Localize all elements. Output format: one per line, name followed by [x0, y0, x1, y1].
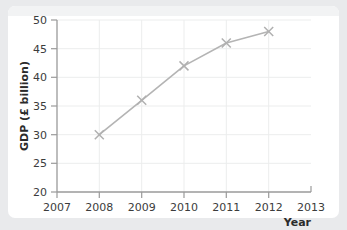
y-tick-label-50: 50: [33, 14, 47, 27]
y-tick-label-20: 20: [33, 186, 47, 199]
x-tick-label-2009: 2009: [128, 201, 156, 214]
y-tick-marks: [51, 20, 57, 192]
y-tick-label-35: 35: [33, 100, 47, 113]
y-axis-title: GDP (£ billion): [18, 61, 31, 151]
x-tick-label-2007: 2007: [43, 201, 71, 214]
y-tick-label-45: 45: [33, 43, 47, 56]
y-tick-label-40: 40: [33, 71, 47, 84]
x-tick-label-2008: 2008: [85, 201, 113, 214]
x-axis-title: Year: [283, 216, 312, 229]
x-tick-label-2012: 2012: [255, 201, 283, 214]
x-tick-label-2011: 2011: [212, 201, 240, 214]
x-tick-label-2013: 2013: [297, 201, 325, 214]
y-tick-label-30: 30: [33, 129, 47, 142]
y-tick-label-25: 25: [33, 157, 47, 170]
x-tick-label-2010: 2010: [170, 201, 198, 214]
x-tick-marks: [57, 192, 269, 198]
line-chart: 50 45 40 35 30 25 20 2007 2008 2009 2010…: [0, 0, 347, 230]
chart-screenshot: 50 45 40 35 30 25 20 2007 2008 2009 2010…: [0, 0, 347, 230]
chart-svg: 50 45 40 35 30 25 20 2007 2008 2009 2010…: [0, 0, 347, 230]
